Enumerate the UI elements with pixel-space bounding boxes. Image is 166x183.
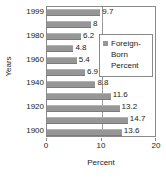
bar-value-label: 4.8 — [75, 44, 86, 52]
bar — [47, 9, 100, 16]
bar-value-label: 9.7 — [102, 8, 113, 16]
bar-value-label: 11.6 — [113, 91, 128, 99]
bar-value-label: 6.9 — [87, 68, 98, 76]
legend-label: Foreign- Born Percent — [111, 38, 141, 71]
legend-item: Foreign- Born Percent — [103, 38, 149, 71]
x-axis-tick-label: 20 — [152, 142, 161, 150]
y-axis-tick-label: 1999 — [2, 8, 44, 16]
y-axis-tick-label: 1940 — [2, 79, 44, 87]
y-axis-tick-label: 1920 — [2, 103, 44, 111]
bar-value-label: 5.4 — [79, 56, 90, 64]
x-axis-title: Percent — [46, 158, 156, 167]
bar — [47, 105, 120, 112]
x-axis-tick-label: 10 — [97, 142, 106, 150]
bar-chart: Years 199919801960194019201900 01020 Per… — [0, 0, 166, 183]
bar — [47, 69, 85, 76]
y-axis-tick-label: 1900 — [2, 127, 44, 135]
bar — [47, 81, 95, 88]
bar-value-label: 8.8 — [97, 79, 108, 87]
bar — [47, 45, 73, 52]
bar — [47, 21, 91, 28]
y-axis-tick-labels: 199919801960194019201900 — [0, 6, 44, 137]
legend: Foreign- Born Percent — [99, 34, 153, 77]
bar-value-label: 14.7 — [130, 115, 146, 123]
bar — [47, 117, 128, 124]
y-axis-tick-label: 1960 — [2, 56, 44, 64]
x-axis-ticks: 01020 — [46, 138, 156, 152]
bar — [47, 93, 111, 100]
bar-value-label: 13.6 — [124, 127, 140, 135]
legend-swatch-icon — [103, 41, 108, 46]
y-axis-tick-label: 1980 — [2, 32, 44, 40]
x-axis-tick-label: 0 — [44, 142, 48, 150]
bar — [47, 33, 81, 40]
bar — [47, 57, 77, 64]
bar — [47, 129, 122, 136]
bar-value-label: 6.2 — [83, 32, 94, 40]
bar-value-label: 8 — [93, 20, 97, 28]
bar-value-label: 13.2 — [122, 103, 138, 111]
